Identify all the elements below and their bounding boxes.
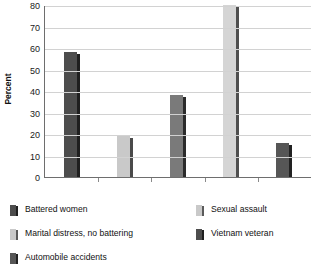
- gridline: [45, 92, 311, 93]
- x-axis-tick: [151, 178, 152, 182]
- legend-item[interactable]: Sexual assault: [196, 198, 314, 222]
- plot-area: Percent 80706050403020100: [0, 6, 314, 194]
- bar-face: [223, 5, 236, 177]
- x-axis-tick: [258, 178, 259, 182]
- legend-column: Sexual assaultVietnam veteran: [196, 198, 314, 246]
- y-axis-tick-label: 30: [14, 109, 40, 118]
- y-axis-tick-label: 70: [14, 23, 40, 32]
- legend-swatch-side: [16, 254, 18, 264]
- y-axis-tick-label: 80: [14, 2, 40, 11]
- x-axis-line: [45, 177, 311, 178]
- legend-swatch-icon: [10, 253, 18, 264]
- x-axis-tick: [205, 178, 206, 182]
- legend-item[interactable]: Vietnam veteran: [196, 222, 314, 246]
- legend-swatch-side: [202, 206, 204, 216]
- legend-swatch-icon: [196, 205, 204, 216]
- x-axis-tick: [98, 178, 99, 182]
- bar-face: [170, 95, 183, 177]
- legend-item[interactable]: Automobile accidents: [10, 246, 190, 270]
- gridline: [45, 157, 311, 158]
- bar-side: [289, 145, 292, 177]
- chart-legend: Battered womenMarital distress, no batte…: [0, 198, 314, 271]
- gridline: [45, 28, 311, 29]
- bar[interactable]: [170, 95, 186, 177]
- bar[interactable]: [223, 5, 239, 177]
- legend-label: Sexual assault: [211, 205, 267, 214]
- bar[interactable]: [276, 143, 292, 177]
- gridline: [45, 71, 311, 72]
- bar-face: [276, 143, 289, 177]
- legend-swatch-side: [202, 230, 204, 240]
- gridline: [45, 135, 311, 136]
- legend-column: Battered womenMarital distress, no batte…: [10, 198, 190, 270]
- y-axis-tick-label: 40: [14, 88, 40, 97]
- bar-side: [130, 138, 133, 177]
- legend-label: Marital distress, no battering: [25, 229, 133, 238]
- legend-label: Battered women: [25, 205, 88, 214]
- legend-swatch-icon: [196, 229, 204, 240]
- gridline: [45, 6, 311, 7]
- legend-label: Vietnam veteran: [211, 229, 273, 238]
- y-axis-tick-label: 50: [14, 66, 40, 75]
- y-axis-tick-labels: 80706050403020100: [14, 6, 40, 178]
- y-axis-tick-label: 0: [14, 174, 40, 183]
- legend-swatch-icon: [10, 229, 18, 240]
- gridline: [45, 49, 311, 50]
- y-axis-tick-label: 10: [14, 152, 40, 161]
- bar-chart-figure: Percent 80706050403020100 Battered women…: [0, 0, 314, 271]
- y-axis-title: Percent: [3, 59, 13, 119]
- legend-label: Automobile accidents: [25, 253, 107, 262]
- y-axis-tick-label: 60: [14, 45, 40, 54]
- legend-item[interactable]: Marital distress, no battering: [10, 222, 190, 246]
- legend-item[interactable]: Battered women: [10, 198, 190, 222]
- axis-area: [44, 6, 311, 178]
- bar-side: [183, 97, 186, 177]
- y-axis-tick-label: 20: [14, 131, 40, 140]
- legend-swatch-side: [16, 206, 18, 216]
- legend-swatch-icon: [10, 205, 18, 216]
- gridline: [45, 114, 311, 115]
- bar-side: [77, 54, 80, 177]
- legend-swatch-side: [16, 230, 18, 240]
